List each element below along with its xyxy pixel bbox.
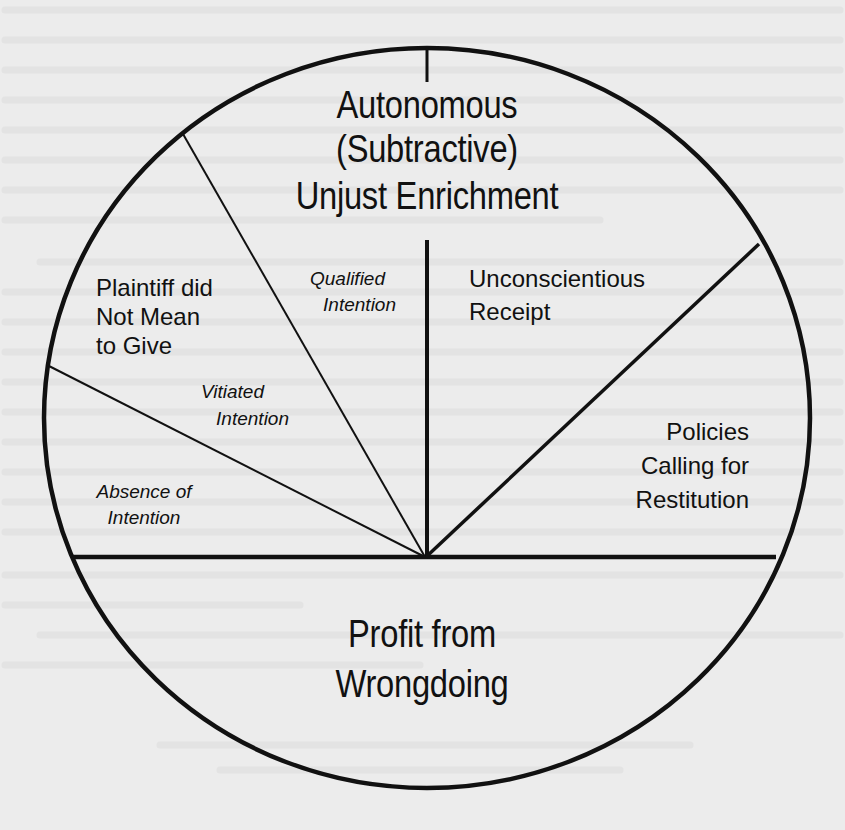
plaintiff-line-3: to Give: [96, 334, 213, 358]
scanned-page: Autonomous (Subtractive) Unjust Enrichme…: [0, 0, 845, 830]
segment-unconscientious-label: Unconscientious Receipt: [469, 267, 645, 324]
unconscientious-line-1: Unconscientious: [469, 267, 645, 300]
title-line-3: Unjust Enrichment: [255, 177, 599, 215]
plaintiff-line-1: Plaintiff did: [96, 276, 213, 305]
vitiated-line-2: Intention: [185, 409, 289, 428]
policies-line-1: Policies: [600, 420, 749, 454]
plaintiff-line-2: Not Mean: [96, 305, 213, 334]
segment-absence-label: Absence of Intention: [82, 482, 206, 527]
bottom-line-1: Profit from: [250, 615, 594, 665]
unconscientious-line-2: Receipt: [469, 300, 645, 324]
policies-line-3: Restitution: [600, 488, 749, 512]
title-label: Autonomous (Subtractive) Unjust Enrichme…: [255, 86, 599, 215]
absence-line-2: Intention: [82, 508, 206, 527]
qualified-line-1: Qualified: [290, 269, 396, 295]
vitiated-line-1: Vitiated: [185, 382, 289, 409]
absence-line-1: Absence of: [82, 482, 206, 508]
title-line-2: (Subtractive): [255, 130, 599, 177]
segment-qualified-label: Qualified Intention: [290, 269, 396, 314]
bottom-line-2: Wrongdoing: [250, 665, 594, 703]
qualified-line-2: Intention: [290, 295, 396, 314]
segment-plaintiff-label: Plaintiff did Not Mean to Give: [96, 276, 213, 358]
segment-policies-label: Policies Calling for Restitution: [600, 420, 749, 512]
title-line-1: Autonomous: [255, 86, 599, 130]
bottom-label: Profit from Wrongdoing: [250, 615, 594, 703]
policies-line-2: Calling for: [600, 454, 749, 488]
segment-vitiated-label: Vitiated Intention: [185, 382, 289, 428]
